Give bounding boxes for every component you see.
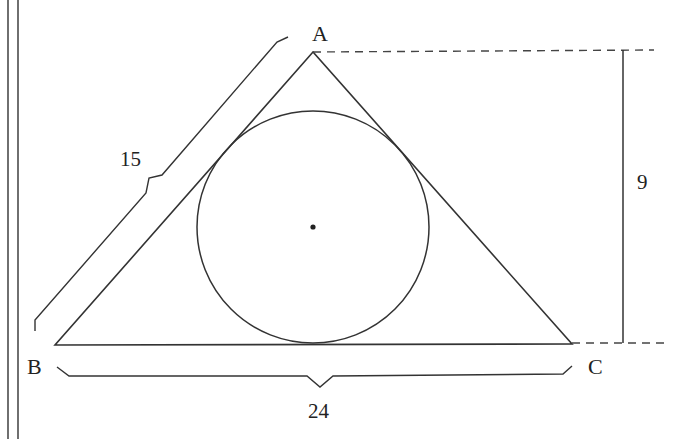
incircle-center-dot [310, 224, 315, 229]
diagram-canvas: A B C 15 24 9 [0, 0, 681, 439]
page-border [8, 0, 18, 439]
vertex-label-c: C [588, 356, 603, 378]
vertex-label-a: A [312, 23, 328, 45]
vertex-label-b: B [27, 356, 42, 378]
dashed-line-top [313, 50, 654, 52]
triangle-abc [55, 52, 572, 345]
height-length-label: 9 [637, 172, 648, 193]
bracket-bc [57, 366, 572, 387]
bracket-ab [35, 37, 288, 331]
side-bc-length-label: 24 [308, 401, 329, 422]
side-ab-length-label: 15 [120, 149, 141, 170]
